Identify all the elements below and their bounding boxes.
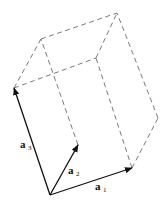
label-a2-subscript: 2: [76, 170, 80, 178]
edge-a2-to-a2a3: [41, 39, 78, 145]
edge-a1a3-to-a1a2a3: [96, 13, 117, 58]
label-a1: a 1: [95, 180, 107, 194]
label-a2-base: a: [68, 164, 74, 176]
label-a2: a 2: [68, 164, 80, 178]
label-a3: a 3: [20, 138, 32, 152]
edge-a2a3-to-a1a2a3: [41, 13, 117, 39]
dashed-edges: [14, 13, 158, 168]
parallelepiped-diagram: a 3 a 2 a 1: [0, 0, 168, 209]
label-a3-base: a: [20, 138, 26, 150]
edge-a3-to-a2a3: [14, 39, 41, 88]
edge-a1-to-a1a2: [132, 118, 158, 168]
label-a1-subscript: 1: [103, 186, 107, 194]
edge-a1-to-a1a3: [96, 58, 132, 168]
label-a3-subscript: 3: [28, 144, 32, 152]
vectors: [14, 88, 132, 195]
edge-a1a2-to-a1a2a3: [117, 13, 158, 118]
edge-a3-to-a1a3: [14, 58, 96, 88]
label-a1-base: a: [95, 180, 101, 192]
